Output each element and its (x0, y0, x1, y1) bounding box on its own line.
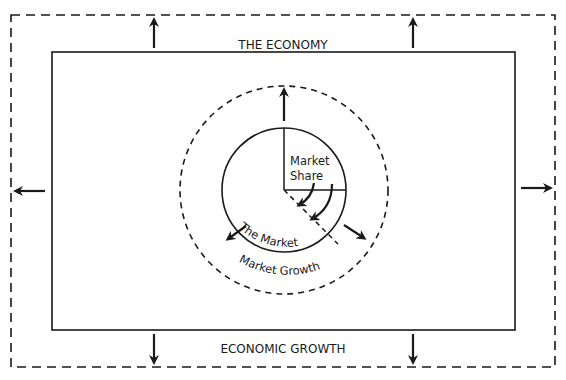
the-market-label: The Market (236, 219, 300, 250)
market-share-label-line1: Market (290, 154, 330, 168)
market-share-label-line2: Share (290, 169, 323, 183)
economic-growth-boundary (11, 15, 555, 367)
market-growth-arrow-right-icon (344, 225, 364, 238)
economic-growth-label: ECONOMIC GROWTH (220, 342, 345, 356)
market-growth-label: Market Growth (237, 252, 321, 278)
share-growth-arrow-inner-icon (299, 183, 314, 205)
economy-label: THE ECONOMY (237, 38, 328, 52)
market-economy-diagram: THE ECONOMY ECONOMIC GROWTH Market Share… (0, 0, 566, 380)
